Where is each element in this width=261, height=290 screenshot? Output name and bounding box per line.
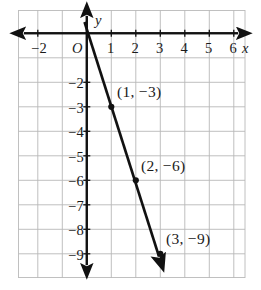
y-tick-label--3: −3 xyxy=(68,101,84,116)
origin-label: O xyxy=(72,41,82,56)
point-label-3: (3, −9) xyxy=(166,231,210,247)
x-tick-label-1: 1 xyxy=(107,41,114,56)
y-tick-label--7: −7 xyxy=(68,199,84,214)
y-tick-label--5: −5 xyxy=(68,150,84,165)
x-axis-label: x xyxy=(242,41,248,56)
y-tick-label--6: −6 xyxy=(68,174,84,189)
y-tick-label--4: −4 xyxy=(68,125,84,140)
x-tick-label-5: 5 xyxy=(205,41,212,56)
data-point-3 xyxy=(157,251,163,257)
y-axis xyxy=(83,16,90,265)
point-label-2: (2, −6) xyxy=(141,158,185,174)
x-tick-label-4: 4 xyxy=(181,41,188,56)
coordinate-plane-figure: −2 1 2 3 4 5 6 −2 −3 −4 −5 −6 −7 −8 −9 O… xyxy=(0,0,261,290)
x-tick-label-6: 6 xyxy=(230,41,237,56)
point-label-1: (1, −3) xyxy=(117,84,161,100)
y-tick-label--8: −8 xyxy=(68,223,84,238)
data-point-1 xyxy=(108,104,114,110)
plotted-line xyxy=(85,22,160,257)
y-axis-label: y xyxy=(95,13,101,28)
x-tick-label--2: −2 xyxy=(31,41,47,56)
y-tick-label--2: −2 xyxy=(68,76,84,91)
x-axis xyxy=(24,30,238,37)
x-tick-label-2: 2 xyxy=(132,41,139,56)
data-point-2 xyxy=(133,177,139,183)
x-tick-label-3: 3 xyxy=(156,41,163,56)
y-tick-label--9: −9 xyxy=(68,248,84,263)
